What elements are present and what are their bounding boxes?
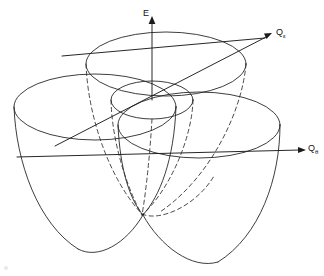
lobe-right	[118, 92, 280, 264]
figure-canvas: E Qε Qθ	[0, 0, 324, 276]
axis-label-q-epsilon-text: Q	[276, 27, 283, 37]
axis-label-energy: E	[143, 8, 149, 18]
lobe-right-bottom	[143, 215, 218, 264]
potential-energy-surface-diagram: E Qε Qθ	[0, 0, 324, 276]
axis-q-epsilon-line-lower	[55, 36, 268, 146]
lobe-right-rim	[118, 92, 280, 158]
axis-q-theta-line	[17, 150, 300, 157]
axis-q-epsilon	[55, 33, 272, 146]
lobe-left-bottom	[78, 215, 143, 252]
scan-artifact-speck	[4, 266, 8, 270]
lobe-left-wall-outer	[14, 107, 78, 249]
lobe-right-wall-outer	[218, 125, 280, 262]
axis-label-q-theta: Qθ	[308, 143, 319, 154]
cone-edge-a	[111, 100, 142, 215]
lobe-back-bottom	[142, 176, 214, 216]
lobe-left-wall-inner	[143, 107, 176, 215]
axis-energy-arrowhead	[149, 16, 156, 24]
axis-label-q-epsilon: Qε	[276, 27, 286, 38]
axis-label-q-epsilon-subscript: ε	[283, 32, 286, 38]
axis-label-q-theta-text: Q	[308, 143, 315, 153]
axis-energy	[149, 16, 156, 100]
lobe-left	[14, 74, 176, 252]
axis-label-energy-text: E	[143, 8, 149, 18]
axis-q-theta-arrowhead	[298, 147, 306, 153]
axis-q-theta	[17, 147, 306, 157]
axis-label-q-theta-subscript: θ	[315, 148, 319, 154]
